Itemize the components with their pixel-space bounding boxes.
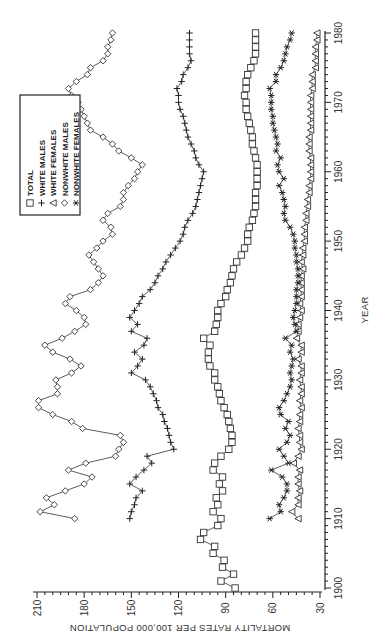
legend-label: WHITE FEMALES [49, 129, 58, 196]
value-tick-label: 30 [315, 602, 326, 614]
year-tick-label: 1960 [333, 160, 344, 183]
value-tick-label: 210 [32, 599, 43, 616]
year-tick-label: 1980 [333, 21, 344, 44]
series-nonwhite-females [266, 30, 301, 521]
legend-label: TOTAL [26, 170, 35, 196]
year-tick-label: 1910 [333, 507, 344, 530]
series-total [197, 30, 260, 591]
legend: TOTALWHITE MALESWHITE FEMALESNONWHITE MA… [20, 95, 81, 215]
value-tick-label: 150 [126, 599, 137, 616]
year-axis-title: YEAR [359, 296, 370, 323]
mortality-chart: 306090120150180210 190019101920193019401… [0, 0, 376, 642]
year-tick-label: 1950 [333, 230, 344, 253]
legend-label: NONWHITE MALES [61, 122, 70, 196]
value-tick-label: 60 [267, 602, 278, 614]
year-tick-label: 1930 [333, 368, 344, 391]
year-tick-label: 1920 [333, 438, 344, 461]
year-axis: 190019101920193019401950196019701980 [325, 21, 344, 599]
year-tick-label: 1900 [333, 576, 344, 599]
value-axis-title: MORTALITY RATES PER 100,000 POPULATION [70, 623, 291, 634]
year-tick-label: 1970 [333, 91, 344, 114]
value-axis: 306090120150180210 [32, 592, 326, 616]
value-tick-label: 90 [220, 602, 231, 614]
value-tick-label: 180 [79, 599, 90, 616]
year-tick-label: 1940 [333, 299, 344, 322]
legend-label: NONWHITE FEMALES [72, 111, 81, 196]
series-white-females [289, 30, 321, 522]
value-tick-label: 120 [173, 599, 184, 616]
legend-label: WHITE MALES [38, 139, 47, 196]
series-white-males [127, 30, 207, 522]
